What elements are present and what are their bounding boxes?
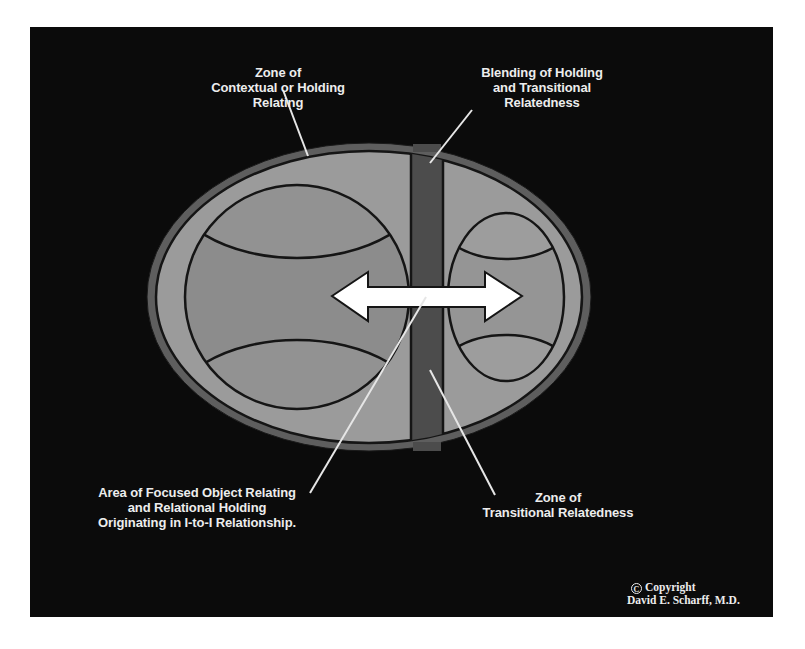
label-line: Area of Focused Object Relating — [62, 485, 332, 500]
label-line: and Relational Holding — [62, 500, 332, 515]
label-line: Zone of — [178, 65, 378, 80]
copyright-label: Copyright — [645, 581, 695, 593]
label-line: Zone of — [468, 490, 648, 505]
label-blending-zone: Blending of Holding and Transitional Rel… — [452, 65, 632, 110]
label-line: Transitional Relatedness — [468, 505, 648, 520]
label-line: Relatedness — [452, 95, 632, 110]
label-line: Relating — [178, 95, 378, 110]
copyright-author: David E. Scharff, M.D. — [627, 594, 777, 606]
label-line: Contextual or Holding — [178, 80, 378, 95]
label-line: Originating in I-to-I Relationship. — [62, 515, 332, 530]
label-focused-object-area: Area of Focused Object Relating and Rela… — [62, 485, 332, 530]
copyright-notice: CCopyright David E. Scharff, M.D. — [627, 581, 777, 606]
label-line: Blending of Holding — [452, 65, 632, 80]
label-line: and Transitional — [452, 80, 632, 95]
copyright-icon: C — [631, 583, 642, 594]
relatedness-zones-diagram — [0, 0, 805, 649]
label-contextual-holding-zone: Zone of Contextual or Holding Relating — [178, 65, 378, 110]
label-transitional-zone: Zone of Transitional Relatedness — [468, 490, 648, 520]
